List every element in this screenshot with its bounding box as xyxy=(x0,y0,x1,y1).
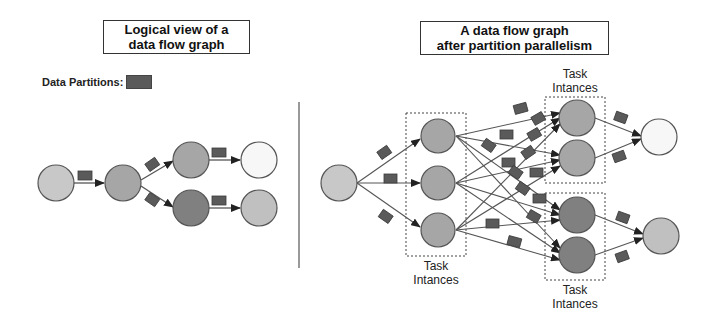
node-sink-bottom xyxy=(241,190,277,226)
node-stage1 xyxy=(105,165,141,201)
node-sink-top xyxy=(241,142,277,178)
node-source xyxy=(38,165,74,201)
node-instance-top-2 xyxy=(559,140,595,176)
node-instance-top-1 xyxy=(559,100,595,136)
dataflow-diagram xyxy=(0,0,718,327)
node-instance-2 xyxy=(421,166,455,200)
node-instance-1 xyxy=(421,119,455,153)
node-source xyxy=(321,165,357,201)
node-instance-bottom-2 xyxy=(559,237,595,273)
node-stage2-top xyxy=(173,142,209,178)
node-sink-top xyxy=(641,119,677,155)
node-stage2-bottom xyxy=(173,190,209,226)
node-sink-bottom xyxy=(643,218,679,254)
node-instance-3 xyxy=(421,213,455,247)
node-instance-bottom-1 xyxy=(559,197,595,233)
left-graph-nodes xyxy=(38,142,277,226)
